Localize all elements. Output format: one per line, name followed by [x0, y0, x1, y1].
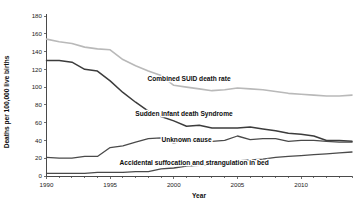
y-axis-tick-label: 180 — [32, 12, 43, 19]
y-axis-tick-label: 120 — [32, 66, 43, 73]
y-axis-tick-label: 80 — [35, 101, 42, 108]
y-axis-tick-label: 160 — [32, 30, 43, 37]
series-label: Unknown cause — [161, 136, 212, 143]
x-axis-tick-label: 1990 — [40, 181, 54, 188]
y-axis-tick-label: 140 — [32, 48, 43, 55]
y-axis-tick-label: 40 — [35, 137, 42, 144]
y-axis-title: Deaths per 100,000 live births — [3, 55, 11, 148]
series-label: Accidental suffocation and strangulation… — [120, 159, 269, 167]
chart-container: 020406080100120140160180 199019952000200… — [0, 0, 362, 204]
series-label: Combined SUID death rate — [147, 75, 230, 82]
x-axis-tick-label: 1995 — [103, 181, 117, 188]
y-axis-tick-label: 100 — [32, 83, 43, 90]
x-axis-tick-label: 2005 — [231, 181, 245, 188]
y-axis-tick-label: 20 — [35, 154, 42, 161]
x-axis-tick-label: 2000 — [167, 181, 181, 188]
suid-death-rate-line-chart: 020406080100120140160180 199019952000200… — [0, 0, 362, 204]
series-label: Sudden infant death Syndrome — [135, 110, 233, 118]
x-axis-tick-label: 2010 — [294, 181, 308, 188]
y-axis-tick-label: 60 — [35, 119, 42, 126]
x-axis-title: Year — [192, 192, 206, 199]
y-axis-tick-label: 0 — [39, 172, 43, 179]
